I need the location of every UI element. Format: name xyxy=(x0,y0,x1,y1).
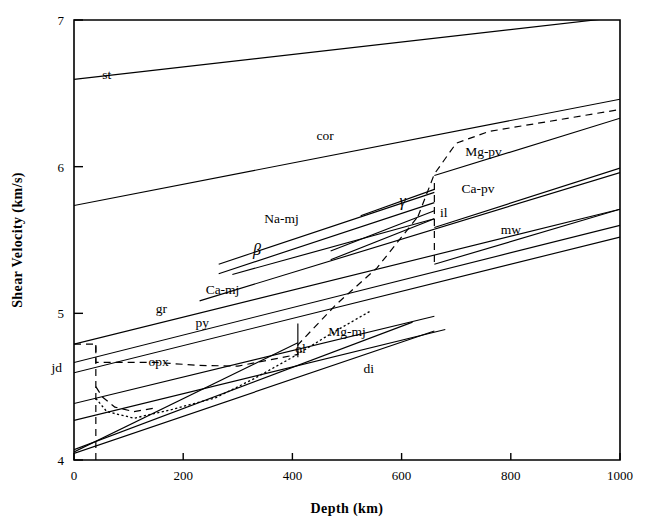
curve-label-di: di xyxy=(364,361,375,376)
y-axis-title: Shear Velocity (km/s) xyxy=(10,172,26,308)
x-tick-label: 0 xyxy=(71,468,78,483)
curve-label-ol: ol xyxy=(295,341,306,356)
x-axis-ticks: 02004006008001000 xyxy=(71,453,633,483)
curve-label-opx: opx xyxy=(149,354,170,369)
curve-label-: γ xyxy=(400,192,407,210)
x-tick-label: 1000 xyxy=(607,468,633,483)
curve-label-gr: gr xyxy=(156,301,168,316)
curve-label-mw: mw xyxy=(501,222,522,237)
x-tick-label: 400 xyxy=(283,468,303,483)
curve-label-st: st xyxy=(102,67,111,82)
y-axis-ticks: 4567 xyxy=(58,13,84,468)
curve-Ca-pv xyxy=(434,168,620,227)
curve-label-jd: jd xyxy=(50,360,62,375)
curve-label-Mg-pv: Mg-pv xyxy=(465,144,502,159)
curve-il-lower xyxy=(331,219,435,260)
curve-opx xyxy=(74,322,413,450)
y-tick-label: 4 xyxy=(58,453,65,468)
x-axis-title: Depth (km) xyxy=(311,501,384,517)
y-tick-label: 5 xyxy=(58,306,65,321)
curve-label-Ca-pv: Ca-pv xyxy=(462,181,495,196)
curve-upper-transition-dashed xyxy=(74,217,418,367)
y-tick-label: 6 xyxy=(58,160,65,175)
curve-Mg-mj xyxy=(74,316,434,403)
curve-label-il: il xyxy=(440,205,448,220)
curve-beta xyxy=(232,219,434,275)
curve-label-cor: cor xyxy=(317,128,335,143)
curve-st xyxy=(74,17,620,79)
curve-label-Na-mj: Na-mj xyxy=(264,211,299,226)
plot-frame xyxy=(74,20,620,460)
x-tick-label: 600 xyxy=(392,468,412,483)
curve-py xyxy=(74,225,620,362)
curve-Mg-pv xyxy=(434,118,620,175)
curve-label-: β xyxy=(252,241,261,259)
curve-label-py: py xyxy=(196,315,210,330)
curve-label-Mg-mj: Mg-mj xyxy=(328,324,366,339)
x-tick-label: 800 xyxy=(501,468,521,483)
x-tick-label: 200 xyxy=(173,468,193,483)
curve-annotations: stcorMg-pvCa-pvγilNa-mjβmwCa-mjgrpyMg-mj… xyxy=(50,67,521,377)
shear-velocity-depth-chart: 02004006008001000 4567 stcorMg-pvCa-pvγi… xyxy=(0,0,648,528)
y-tick-label: 7 xyxy=(58,13,65,28)
curve-label-Ca-mj: Ca-mj xyxy=(206,282,240,297)
curve-mw xyxy=(434,209,620,264)
curve-ol xyxy=(74,343,298,452)
curve-di xyxy=(74,329,445,420)
curve-layer xyxy=(74,17,620,460)
curve-cor xyxy=(74,99,620,205)
curve-Ca-mj xyxy=(200,173,620,301)
